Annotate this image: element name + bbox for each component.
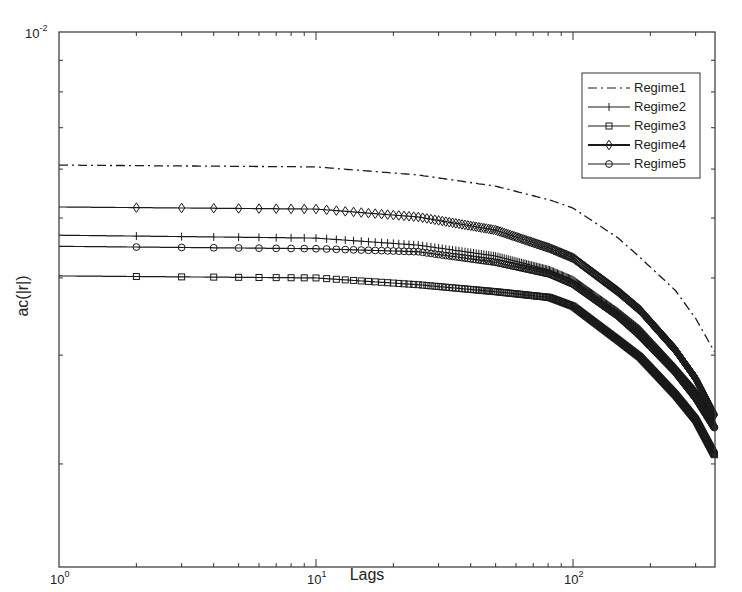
series-regime2 [59, 232, 714, 422]
series-regime3 [59, 274, 717, 458]
x-tick-label-0: 100 [50, 569, 69, 587]
chart-canvas: 10-2 100 101 102 Lags ac(|r|) Regime1 Re… [0, 0, 742, 592]
legend-label-regime5: Regime5 [634, 156, 686, 171]
x-tick-label-1: 101 [307, 569, 326, 587]
x-tick-label-2: 102 [564, 569, 583, 587]
legend-label-regime4: Regime4 [634, 137, 686, 152]
legend-label-regime2: Regime2 [634, 99, 686, 114]
legend-label-regime1: Regime1 [634, 80, 686, 95]
y-tick-label-top: 10-2 [25, 23, 47, 41]
y-axis-label: ac(|r|) [14, 275, 31, 316]
legend-label-regime3: Regime3 [634, 118, 686, 133]
series-regime1 [59, 165, 714, 352]
x-axis-label: Lags [350, 566, 385, 583]
legend: Regime1 Regime2 Regime3 Regime4 Regime5 [582, 73, 700, 178]
plot-curves [59, 165, 718, 458]
